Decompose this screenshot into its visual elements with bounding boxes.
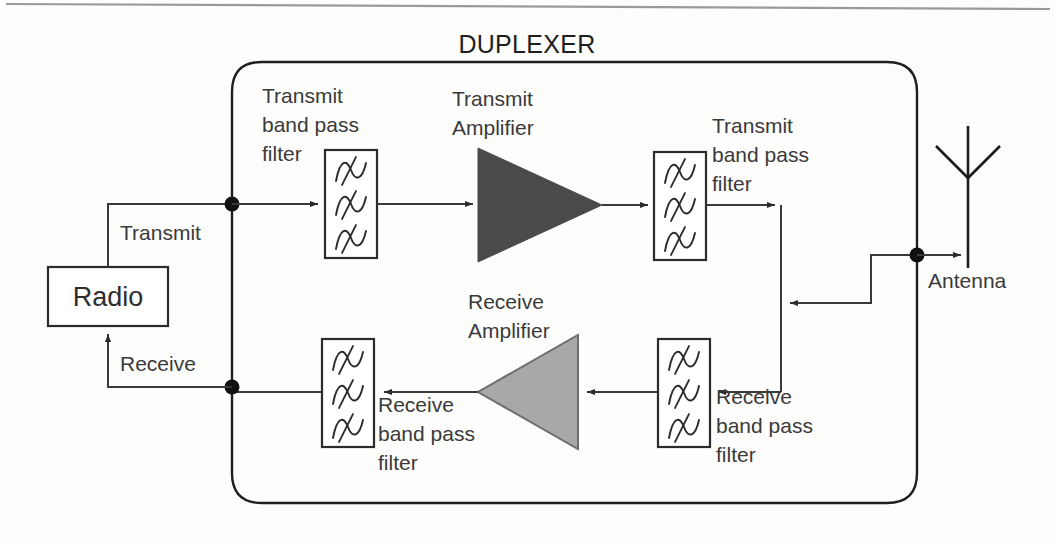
transmit-bandpass-filter-input[interactable]	[325, 150, 377, 258]
transmit-amplifier-label-line1: Transmit	[452, 87, 533, 110]
transmit-bpf-in-label-line1: Transmit	[262, 84, 343, 107]
transmit-bpf-in-label-line3: filter	[262, 142, 302, 165]
transmit-path-label: Transmit	[120, 221, 201, 244]
transmit-bandpass-filter-output[interactable]	[654, 152, 706, 260]
duplexer-block-diagram: DUPLEXER Radio Transmit Transmit band pa…	[0, 0, 1054, 543]
duplexer-title: DUPLEXER	[458, 30, 595, 58]
transmit-bpf-in-label-line2: band pass	[262, 113, 359, 136]
transmit-bpf-out-label-line2: band pass	[712, 143, 809, 166]
transmit-bpf-out-label-line3: filter	[712, 172, 752, 195]
receive-bpf-in-label-line1: Receive	[716, 385, 792, 408]
receive-bpf-in-label-line2: band pass	[716, 414, 813, 437]
receive-amplifier-label-line1: Receive	[468, 290, 544, 313]
receive-amplifier-label-line2: Amplifier	[468, 319, 550, 342]
receive-bpf-out-label-line3: filter	[378, 451, 418, 474]
receive-bpf-in-label-line3: filter	[716, 443, 756, 466]
schematic-canvas: DUPLEXER Radio Transmit Transmit band pa…	[0, 0, 1054, 543]
receive-path-label: Receive	[120, 352, 196, 375]
wire-antenna-to-duplexer-common	[790, 255, 917, 303]
antenna-label: Antenna	[928, 269, 1007, 292]
page-scan-line	[6, 4, 1050, 9]
antenna-icon[interactable]	[936, 126, 1000, 268]
transmit-bpf-out-label-line1: Transmit	[712, 114, 793, 137]
receive-amplifier-triangle[interactable]	[478, 335, 578, 449]
receive-bpf-out-label-line2: band pass	[378, 422, 475, 445]
receive-bpf-out-label-line1: Receive	[378, 393, 454, 416]
receive-bandpass-filter-input[interactable]	[658, 339, 710, 447]
transmit-amplifier-label-line2: Amplifier	[452, 116, 534, 139]
transmit-amplifier-triangle[interactable]	[478, 148, 602, 262]
radio-label: Radio	[73, 282, 144, 312]
receive-bandpass-filter-output[interactable]	[322, 339, 374, 447]
